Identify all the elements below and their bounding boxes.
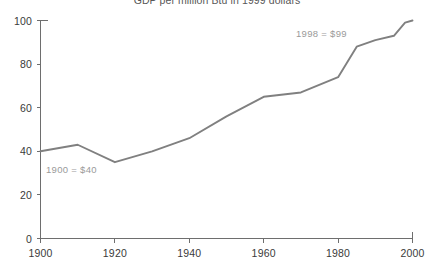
x-axis-tick-labels: 1900 1920 1940 1960 1980 2000 bbox=[28, 247, 424, 259]
annotation-1900: 1900 = $40 bbox=[46, 164, 97, 175]
chart-container: GDP per million Btu in 1999 dollars 100 … bbox=[0, 0, 434, 270]
x-axis-ticks bbox=[41, 239, 413, 243]
axis-spines bbox=[41, 21, 413, 239]
line-chart-plot: 100 80 60 40 20 0 1900 1920 1940 1960 19… bbox=[0, 0, 434, 270]
y-tick-label-80: 80 bbox=[20, 58, 32, 70]
x-tick-label-1920: 1920 bbox=[103, 247, 127, 259]
y-tick-label-0: 0 bbox=[26, 233, 32, 245]
x-tick-label-2000: 2000 bbox=[400, 247, 424, 259]
y-axis-ticks bbox=[37, 21, 41, 239]
y-tick-label-20: 20 bbox=[20, 189, 32, 201]
annotation-1998: 1998 = $99 bbox=[296, 28, 347, 39]
y-axis-tick-labels: 100 80 60 40 20 0 bbox=[14, 15, 32, 245]
y-tick-label-60: 60 bbox=[20, 102, 32, 114]
y-tick-label-40: 40 bbox=[20, 145, 32, 157]
data-line-gdp-per-million-btu bbox=[41, 21, 413, 163]
x-tick-label-1940: 1940 bbox=[177, 247, 201, 259]
y-tick-label-100: 100 bbox=[14, 15, 32, 27]
x-tick-label-1980: 1980 bbox=[326, 247, 350, 259]
x-tick-label-1960: 1960 bbox=[252, 247, 276, 259]
x-tick-label-1900: 1900 bbox=[28, 247, 52, 259]
